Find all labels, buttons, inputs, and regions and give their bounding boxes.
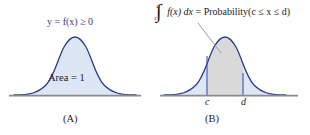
tick-label-c: c [205,97,209,107]
equation-label-a: y = f(x) ≥ 0 [47,17,93,27]
panel-caption-a: (A) [63,113,78,124]
integral-equation-label: ∫dcf(x) dx = Probability(c ≤ x ≤ d) [156,7,290,17]
equals-sign: = [195,6,201,17]
probability-expression: Probability(c ≤ x ≤ d) [204,6,291,17]
panel-b-graphic [152,0,310,135]
area-label-a: Area = 1 [48,73,85,84]
integrand-label: f(x) dx [167,6,193,17]
panel-b: ∫dcf(x) dx = Probability(c ≤ x ≤ d) c d … [152,0,310,135]
integral-lower-limit: c [154,15,157,21]
shaded-probability-region [164,37,286,95]
panel-a: y = f(x) ≥ 0 Area = 1 (A) [0,0,152,135]
density-curve-fill-a [14,37,136,95]
tick-label-d: d [241,97,246,107]
panel-caption-b: (B) [205,113,219,124]
leader-line [198,23,221,53]
figure-container: y = f(x) ≥ 0 Area = 1 (A) [0,0,310,135]
